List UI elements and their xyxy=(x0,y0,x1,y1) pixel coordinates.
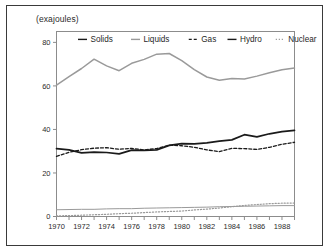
legend-label-nuclear: Nuclear xyxy=(288,35,316,44)
series-group xyxy=(57,53,295,215)
x-tick-label: 1970 xyxy=(48,222,65,231)
axes-group xyxy=(53,32,295,221)
x-tick-label: 1976 xyxy=(123,222,140,231)
y-tick-label: 20 xyxy=(42,169,50,178)
y-tick-label: 80 xyxy=(42,38,50,47)
chart-figure: (exajoules) 0204060801970197219741976197… xyxy=(0,0,329,251)
legend-label-solids: Solids xyxy=(91,35,113,44)
x-tick-label: 1972 xyxy=(73,222,90,231)
legend-group: SolidsLiquidsGasHydroNuclear xyxy=(78,35,317,44)
tick-labels-group: 0204060801970197219741976197819801982198… xyxy=(42,38,290,231)
y-tick-label: 40 xyxy=(42,125,50,134)
line-chart-svg: 0204060801970197219741976197819801982198… xyxy=(0,0,329,251)
x-tick-label: 1984 xyxy=(224,222,241,231)
series-line-hydro xyxy=(57,206,295,210)
y-tick-label: 60 xyxy=(42,82,50,91)
y-tick-label: 0 xyxy=(46,212,50,221)
legend-label-gas: Gas xyxy=(201,35,216,44)
series-line-liquids xyxy=(57,53,295,85)
x-tick-label: 1980 xyxy=(173,222,190,231)
x-tick-label: 1982 xyxy=(198,222,215,231)
x-tick-label: 1978 xyxy=(148,222,165,231)
plot-area: 0204060801970197219741976197819801982198… xyxy=(0,0,329,251)
x-tick-label: 1988 xyxy=(274,222,291,231)
series-line-solids xyxy=(57,130,295,154)
x-tick-label: 1974 xyxy=(98,222,115,231)
legend-label-liquids: Liquids xyxy=(144,35,170,44)
legend-label-hydro: Hydro xyxy=(240,35,262,44)
x-tick-label: 1986 xyxy=(249,222,266,231)
